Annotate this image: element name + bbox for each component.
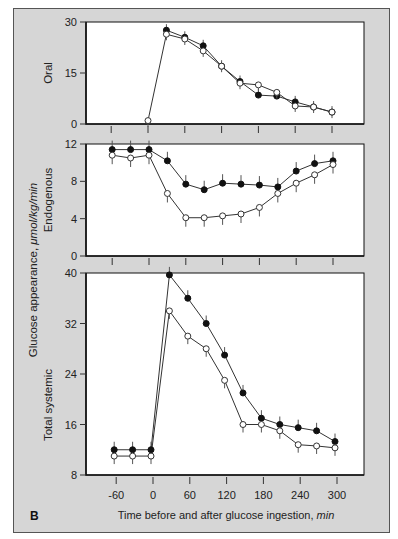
y-tick-label: 0 bbox=[71, 118, 77, 130]
plot-area bbox=[86, 273, 364, 475]
filled-circle-marker bbox=[166, 272, 172, 278]
filled-circle-marker bbox=[222, 352, 228, 358]
open-circle-marker bbox=[222, 377, 228, 383]
y-tick-label: 8 bbox=[71, 469, 77, 481]
total-systemic-panel: 816243240-60060120180240300 bbox=[65, 267, 364, 501]
open-circle-marker bbox=[183, 215, 189, 221]
filled-circle-marker bbox=[332, 439, 338, 445]
glucose-appearance-figure: 01530 04812 816243240-60060120180240300 … bbox=[0, 0, 398, 539]
filled-circle-marker bbox=[201, 187, 207, 193]
open-circle-marker bbox=[274, 89, 280, 95]
filled-circle-marker bbox=[185, 295, 191, 301]
x-tick-label: 0 bbox=[150, 489, 156, 501]
open-circle-marker bbox=[163, 31, 169, 37]
open-circle-marker bbox=[201, 215, 207, 221]
filled-circle-marker bbox=[295, 425, 301, 431]
filled-circle-marker bbox=[256, 182, 262, 188]
open-circle-marker bbox=[146, 152, 152, 158]
total-systemic-ylabel: Total systemic bbox=[42, 369, 54, 441]
y-tick-label: 8 bbox=[71, 175, 77, 187]
open-circle-marker bbox=[203, 346, 209, 352]
filled-circle-marker bbox=[277, 422, 283, 428]
panel-letter: B bbox=[30, 509, 39, 523]
open-circle-marker bbox=[220, 213, 226, 219]
open-circle-marker bbox=[200, 48, 206, 54]
open-circle-marker bbox=[148, 453, 154, 459]
open-circle-marker bbox=[237, 80, 243, 86]
x-tick-label: 300 bbox=[328, 489, 346, 501]
filled-circle-marker bbox=[203, 321, 209, 327]
y-tick-label: 15 bbox=[65, 67, 77, 79]
open-circle-marker bbox=[292, 103, 298, 109]
y-tick-label: 40 bbox=[65, 267, 77, 279]
y-tick-label: 12 bbox=[65, 138, 77, 150]
plot-area bbox=[86, 144, 364, 256]
filled-circle-marker bbox=[128, 147, 134, 153]
open-circle-marker bbox=[109, 152, 115, 158]
open-circle-marker bbox=[312, 172, 318, 178]
x-tick-label: -60 bbox=[108, 489, 124, 501]
y-tick-label: 4 bbox=[71, 213, 77, 225]
open-circle-marker bbox=[277, 428, 283, 434]
open-circle-marker bbox=[182, 36, 188, 42]
open-circle-marker bbox=[256, 204, 262, 210]
filled-circle-marker bbox=[258, 415, 264, 421]
oral-panel: 01530 bbox=[65, 16, 364, 133]
open-circle-marker bbox=[166, 308, 172, 314]
open-circle-marker bbox=[219, 63, 225, 69]
open-circle-marker bbox=[258, 422, 264, 428]
filled-circle-marker bbox=[148, 447, 154, 453]
y-tick-label: 30 bbox=[65, 16, 77, 28]
x-tick-label: 240 bbox=[291, 489, 309, 501]
filled-circle-marker bbox=[238, 181, 244, 187]
x-axis-label: Time before and after glucose ingestion,… bbox=[118, 509, 335, 521]
open-circle-marker bbox=[185, 333, 191, 339]
filled-circle-marker bbox=[111, 447, 117, 453]
filled-circle-marker bbox=[293, 168, 299, 174]
open-circle-marker bbox=[330, 162, 336, 168]
plot-area bbox=[86, 22, 364, 124]
open-circle-marker bbox=[332, 445, 338, 451]
filled-circle-marker bbox=[183, 181, 189, 187]
open-circle-marker bbox=[255, 82, 261, 88]
open-circle-marker bbox=[311, 104, 317, 110]
filled-circle-marker bbox=[255, 92, 261, 98]
open-circle-marker bbox=[329, 109, 335, 115]
open-circle-marker bbox=[128, 155, 134, 161]
x-tick-label: 60 bbox=[184, 489, 196, 501]
filled-circle-marker bbox=[312, 161, 318, 167]
y-tick-label: 32 bbox=[65, 318, 77, 330]
open-circle-marker bbox=[164, 190, 170, 196]
open-circle-marker bbox=[111, 453, 117, 459]
y-tick-label: 16 bbox=[65, 419, 77, 431]
endogenous-panel: 04812 bbox=[65, 138, 364, 265]
x-tick-label: 180 bbox=[254, 489, 272, 501]
oral-ylabel: Oral bbox=[42, 62, 54, 84]
open-circle-marker bbox=[145, 118, 151, 124]
endogenous-ylabel: Endogenous bbox=[42, 167, 54, 232]
y-tick-label: 0 bbox=[71, 250, 77, 262]
open-circle-marker bbox=[240, 422, 246, 428]
open-circle-marker bbox=[275, 190, 281, 196]
open-circle-marker bbox=[238, 211, 244, 217]
filled-circle-marker bbox=[275, 184, 281, 190]
open-circle-marker bbox=[293, 180, 299, 186]
open-circle-marker bbox=[295, 442, 301, 448]
x-tick-label: 120 bbox=[217, 489, 235, 501]
y-tick-label: 24 bbox=[65, 368, 77, 380]
open-circle-marker bbox=[130, 453, 136, 459]
common-ylabel: Glucose appearance, μmol/kg/min bbox=[27, 183, 39, 357]
filled-circle-marker bbox=[164, 158, 170, 164]
filled-circle-marker bbox=[130, 447, 136, 453]
filled-circle-marker bbox=[240, 390, 246, 396]
open-circle-marker bbox=[314, 443, 320, 449]
filled-circle-marker bbox=[220, 180, 226, 186]
filled-circle-marker bbox=[314, 428, 320, 434]
